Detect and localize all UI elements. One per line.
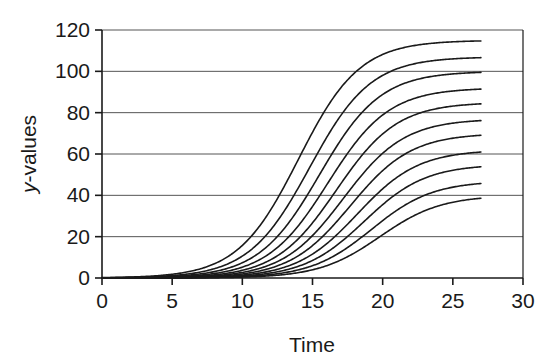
svg-text:y-values: y-values xyxy=(17,115,40,195)
y-tick-label: 60 xyxy=(67,142,90,165)
y-tick-label: 100 xyxy=(55,59,90,82)
x-tick-label: 30 xyxy=(511,289,534,312)
x-tick-label: 0 xyxy=(96,289,108,312)
data-series-curve-10 xyxy=(102,183,481,278)
data-series-curve-9 xyxy=(102,167,481,278)
y-axis-tick-labels: 020406080100120 xyxy=(55,18,90,289)
x-tick-label: 20 xyxy=(371,289,394,312)
line-chart: 020406080100120 051015202530 Time y-valu… xyxy=(0,0,554,362)
data-series-curve-1 xyxy=(102,41,481,278)
y-axis-title: y-values xyxy=(17,115,40,195)
y-tick-label: 0 xyxy=(78,266,90,289)
y-tick-label: 40 xyxy=(67,183,90,206)
data-series-curve-11 xyxy=(102,198,481,278)
y-tick-label: 20 xyxy=(67,225,90,248)
y-tick-label: 80 xyxy=(67,101,90,124)
y-axis-title-rest: -values xyxy=(17,115,40,183)
data-series-curve-7 xyxy=(102,135,481,278)
x-axis-title: Time xyxy=(289,333,335,356)
x-tick-label: 25 xyxy=(441,289,464,312)
x-tick-label: 10 xyxy=(231,289,254,312)
data-series-group xyxy=(102,41,481,278)
x-axis-tick-labels: 051015202530 xyxy=(96,289,535,312)
x-tick-label: 5 xyxy=(166,289,178,312)
x-axis-ticks xyxy=(102,278,523,285)
chart-figure: 020406080100120 051015202530 Time y-valu… xyxy=(0,0,554,362)
x-tick-label: 15 xyxy=(301,289,324,312)
y-axis-ticks xyxy=(95,30,102,278)
y-tick-label: 120 xyxy=(55,18,90,41)
data-series-curve-4 xyxy=(102,89,481,278)
data-series-curve-3 xyxy=(102,72,481,277)
